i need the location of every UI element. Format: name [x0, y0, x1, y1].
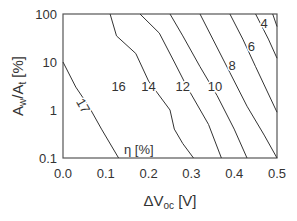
- eta-annotation: η [%]: [124, 142, 154, 157]
- contour-label-14: 14: [141, 79, 155, 94]
- x-tick-label: 0.4: [225, 166, 243, 181]
- plot-frame: [63, 14, 277, 158]
- x-tick-label: 0.5: [268, 166, 286, 181]
- contour-lines: [63, 14, 277, 158]
- x-tick-label: 0.3: [182, 166, 200, 181]
- contour-chart: 1716141210864 0.00.10.20.30.40.5 1001010…: [0, 0, 297, 221]
- contour-label-17: 17: [73, 96, 93, 116]
- contour-17: [63, 62, 119, 158]
- x-axis-label: ΔVoc [V]: [143, 192, 196, 211]
- x-tick-label: 0.1: [97, 166, 115, 181]
- y-tick-label: 0.1: [39, 151, 57, 166]
- x-tick-label: 0.2: [140, 166, 158, 181]
- contour-label-16: 16: [111, 79, 125, 94]
- contour-label-12: 12: [176, 79, 190, 94]
- x-axis-ticks: 0.00.10.20.30.40.5: [54, 166, 286, 181]
- contour-label-4: 4: [261, 16, 268, 31]
- contour-4: [273, 14, 277, 27]
- contour-label-8: 8: [228, 58, 235, 73]
- x-tick-label: 0.0: [54, 166, 72, 181]
- contour-8: [230, 14, 277, 112]
- y-tick-label: 10: [43, 55, 57, 70]
- y-tick-label: 1: [50, 103, 57, 118]
- y-axis-label: Aw/At [%]: [9, 56, 28, 116]
- contour-label-6: 6: [248, 39, 255, 54]
- y-tick-label: 100: [35, 7, 57, 22]
- contour-label-10: 10: [208, 79, 222, 94]
- y-axis-ticks: 1001010.1: [35, 7, 57, 166]
